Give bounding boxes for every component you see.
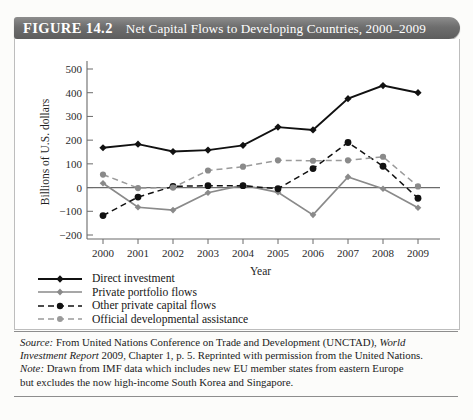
caption-note-line-2: but excludes the now high-income South K…	[20, 376, 454, 389]
data-point	[170, 184, 176, 190]
data-point	[379, 82, 386, 89]
legend-key-solid-black-diamond	[37, 273, 83, 285]
legend-key-dashed-gray-circle	[37, 313, 83, 325]
data-point	[415, 183, 421, 189]
series-line-1	[103, 177, 418, 215]
data-point	[239, 142, 246, 149]
legend-label-0: Direct investment	[92, 272, 175, 285]
data-point	[134, 141, 141, 148]
data-point	[310, 158, 316, 164]
data-point	[240, 164, 246, 170]
data-point	[345, 139, 352, 146]
data-point	[170, 207, 177, 214]
figure-header-inner: FIGURE 14.2 Net Capital Flows to Develop…	[23, 19, 454, 38]
data-point	[99, 144, 106, 151]
figure-header-banner: FIGURE 14.2 Net Capital Flows to Develop…	[14, 17, 460, 39]
x-tick-label: 2009	[407, 247, 430, 259]
x-tick-label: 2005	[267, 247, 290, 259]
data-point	[380, 154, 386, 160]
y-tick-label: 200	[66, 134, 83, 146]
data-point	[274, 124, 281, 131]
data-point	[135, 185, 141, 191]
series-line-3	[103, 157, 418, 188]
caption-source-italic: World	[379, 336, 405, 348]
legend-item-other-private-capital-flows: Other private capital flows	[37, 299, 337, 313]
x-tick-label: 2000	[92, 247, 115, 259]
figure-title: Net Capital Flows to Developing Countrie…	[126, 21, 426, 37]
data-point	[135, 194, 142, 201]
x-tick-label: 2008	[372, 247, 395, 259]
caption-source-line-2: Investment Report 2009, Chapter 1, p. 5.…	[20, 349, 454, 362]
legend-item-private-portfolio-flows: Private portfolio flows	[37, 286, 337, 300]
caption-note-text-1: Drawn from IMF data which includes new E…	[44, 362, 404, 374]
caption-source-line-1: Source: From United Nations Conference o…	[20, 336, 454, 349]
legend-label-2: Other private capital flows	[92, 299, 216, 312]
legend-key-solid-gray-diamond	[37, 286, 83, 298]
figure-container: FIGURE 14.2 Net Capital Flows to Develop…	[0, 0, 473, 420]
legend-label-1: Private portfolio flows	[92, 286, 197, 299]
data-point	[414, 89, 421, 96]
caption-note-line-1: Note: Drawn from IMF data which includes…	[20, 362, 454, 375]
data-point	[169, 148, 176, 155]
data-point	[380, 185, 387, 192]
x-tick-label: 2004	[232, 247, 255, 259]
data-point	[415, 204, 422, 211]
data-point	[310, 165, 317, 172]
caption-source-italic-2: Investment Report	[20, 349, 99, 361]
chart-legend: Direct investment Private portfolio flow…	[37, 272, 337, 326]
caption-source-text-2: 2009, Chapter 1, p. 5. Reprinted with pe…	[99, 349, 423, 361]
x-tick-label: 2003	[197, 247, 220, 259]
data-point	[275, 185, 282, 192]
data-point	[205, 182, 212, 189]
y-tick-label: 100	[66, 158, 83, 170]
data-point	[205, 167, 211, 173]
figure-number: FIGURE 14.2	[23, 20, 113, 37]
legend-item-official-developmental-assistance: Official developmental assistance	[37, 313, 337, 327]
y-tick-label: −200	[59, 229, 82, 241]
y-tick-label: 0	[77, 182, 83, 194]
legend-key-dashed-black-circle	[37, 300, 83, 312]
series-line-0	[103, 86, 418, 152]
y-tick-label: 400	[66, 87, 83, 99]
data-point	[204, 147, 211, 154]
caption-note-label: Note:	[20, 362, 44, 374]
y-tick-label: 500	[66, 63, 83, 75]
y-axis-title: Billions of U.S. dollars	[39, 98, 51, 205]
caption-source-text-1: From United Nations Conference on Trade …	[53, 336, 379, 348]
legend-item-direct-investment: Direct investment	[37, 272, 337, 286]
y-tick-label: 300	[66, 110, 83, 122]
caption-bottom-rule	[14, 396, 458, 397]
data-point	[415, 195, 422, 202]
caption-text: Source: From United Nations Conference o…	[14, 332, 458, 394]
figure-caption: Source: From United Nations Conference o…	[14, 331, 458, 397]
data-point	[100, 171, 106, 177]
legend-label-3: Official developmental assistance	[92, 313, 248, 326]
data-point	[100, 212, 107, 219]
y-tick-label: −100	[59, 205, 82, 217]
data-point	[345, 157, 351, 163]
x-tick-label: 2006	[302, 247, 325, 259]
data-point	[205, 189, 212, 196]
x-tick-label: 2007	[337, 247, 360, 259]
series-line-2	[103, 143, 418, 216]
data-point	[380, 163, 387, 170]
data-point	[275, 157, 281, 163]
x-tick-label: 2001	[127, 247, 149, 259]
caption-source-label: Source:	[20, 336, 53, 348]
chart-card: 5004003002001000−100−2002000200120022003…	[14, 39, 460, 330]
data-point	[240, 182, 247, 189]
x-tick-label: 2002	[162, 247, 184, 259]
